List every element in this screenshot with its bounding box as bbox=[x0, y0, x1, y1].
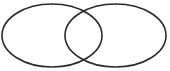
set-a-ellipse bbox=[2, 4, 102, 67]
venn-diagram bbox=[0, 0, 170, 71]
set-b-ellipse bbox=[65, 4, 166, 67]
